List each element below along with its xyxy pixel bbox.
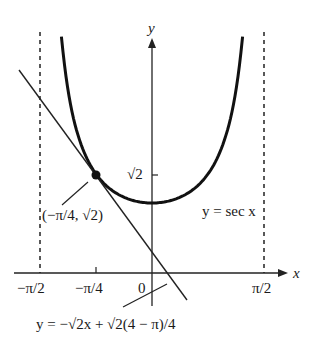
tick-label-sqrt2: √2	[127, 166, 143, 182]
y-axis-arrow-icon	[148, 38, 156, 48]
x-axis-label: x	[292, 265, 300, 281]
tick-label-neg-pi-4: −π/4	[75, 280, 103, 296]
tangent-line	[19, 70, 187, 300]
tick-label-neg-pi-2: −π/2	[17, 280, 45, 296]
x-axis-arrow-icon	[278, 269, 288, 277]
y-axis-label: y	[146, 20, 155, 36]
tick-label-pi-2: π/2	[252, 280, 271, 296]
tangent-point	[92, 171, 101, 180]
point-leader-line	[62, 182, 88, 205]
tick-label-zero: 0	[138, 280, 146, 296]
tangent-label: y = −√2x + √2(4 − π)/4	[36, 316, 176, 333]
chart: y x −π/2 −π/4 0 π/2 √2 y = sec x (−π/4, …	[0, 0, 317, 340]
point-label: (−π/4, √2)	[42, 207, 103, 224]
curve-label: y = sec x	[202, 203, 256, 219]
